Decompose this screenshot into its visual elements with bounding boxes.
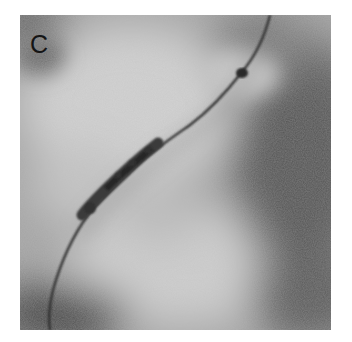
panel-label: C [30, 32, 48, 57]
angiogram-image [20, 15, 331, 330]
angiogram-panel: C [20, 15, 331, 330]
